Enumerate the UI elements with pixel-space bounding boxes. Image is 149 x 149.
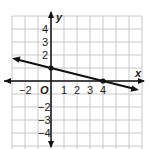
x-tick-label: −2 xyxy=(19,84,32,96)
x-axis-label: x xyxy=(134,67,142,79)
y-tick-label: 2 xyxy=(42,49,48,61)
y-tick-label: −2 xyxy=(38,101,51,113)
origin-label: O xyxy=(40,84,49,96)
point-4-0 xyxy=(100,78,105,83)
point-0-1 xyxy=(48,65,53,70)
x-tick-label: 3 xyxy=(87,84,93,96)
x-tick-label: 1 xyxy=(61,84,67,96)
y-tick-label: 3 xyxy=(42,36,48,48)
coordinate-plane: y x O −2 1 2 3 4 4 3 2 −2 −3 −4 xyxy=(0,0,149,149)
x-tick-label: 4 xyxy=(100,84,106,96)
y-axis-label: y xyxy=(55,11,63,23)
y-tick-label: −4 xyxy=(38,127,51,139)
grid xyxy=(12,16,142,149)
y-tick-label: −3 xyxy=(38,114,51,126)
y-tick-label: 4 xyxy=(42,23,48,35)
x-tick-label: 2 xyxy=(74,84,80,96)
